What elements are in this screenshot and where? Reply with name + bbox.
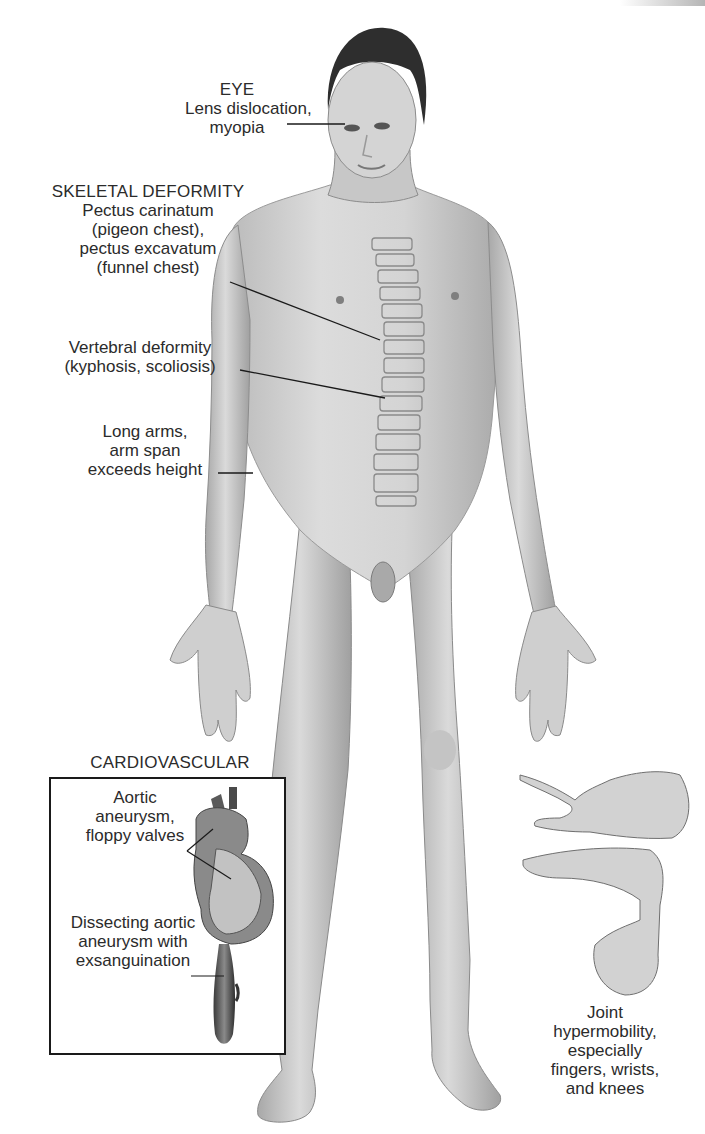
aortic-line-3: floppy valves — [70, 826, 200, 845]
joint-line-1: Joint — [530, 1003, 680, 1022]
skeletal-heading: SKELETAL DEFORMITY — [18, 182, 278, 201]
eye-heading: EYE — [185, 80, 289, 99]
vertebral-line-1: Vertebral deformity — [40, 338, 240, 357]
joint-label: Joint hypermobility, especially fingers,… — [530, 1003, 680, 1098]
dissecting-label: Dissecting aortic aneurysm with exsangui… — [58, 913, 208, 970]
joint-line-2: hypermobility, — [530, 1022, 680, 1041]
cardiovascular-heading: CARDIOVASCULAR — [60, 753, 280, 772]
dissecting-line-2: aneurysm with — [58, 932, 208, 951]
dissecting-line-3: exsanguination — [58, 951, 208, 970]
corner-fade — [620, 0, 705, 6]
aortic-label: Aortic aneurysm, floppy valves — [70, 788, 200, 845]
legs — [258, 520, 501, 1122]
dissecting-line-1: Dissecting aortic — [58, 913, 208, 932]
hypermobility-hands — [520, 772, 689, 995]
joint-line-5: and knees — [530, 1079, 680, 1098]
vertebral-line-2: (kyphosis, scoliosis) — [40, 357, 240, 376]
aortic-line-1: Aortic — [70, 788, 200, 807]
aortic-line-2: aneurysm, — [70, 807, 200, 826]
skeletal-line-4: (funnel chest) — [18, 258, 278, 277]
arms-line-2: arm span — [70, 441, 220, 460]
skeletal-line-2: (pigeon chest), — [18, 220, 278, 239]
arms-label: Long arms, arm span exceeds height — [70, 422, 220, 479]
skeletal-line-1: Pectus carinatum — [18, 201, 278, 220]
head — [328, 28, 427, 203]
eye-line-2: myopia — [185, 118, 289, 137]
skeletal-label: SKELETAL DEFORMITY Pectus carinatum (pig… — [18, 182, 278, 277]
skeletal-line-3: pectus excavatum — [18, 239, 278, 258]
eye-label: EYE Lens dislocation, myopia — [185, 80, 289, 137]
joint-line-4: fingers, wrists, — [530, 1060, 680, 1079]
eye-line-1: Lens dislocation, — [185, 99, 289, 118]
joint-line-3: especially — [530, 1041, 680, 1060]
arms-line-1: Long arms, — [70, 422, 220, 441]
cardiovascular-heading-text: CARDIOVASCULAR — [60, 753, 280, 772]
arms-line-3: exceeds height — [70, 460, 220, 479]
vertebral-label: Vertebral deformity (kyphosis, scoliosis… — [40, 338, 240, 376]
